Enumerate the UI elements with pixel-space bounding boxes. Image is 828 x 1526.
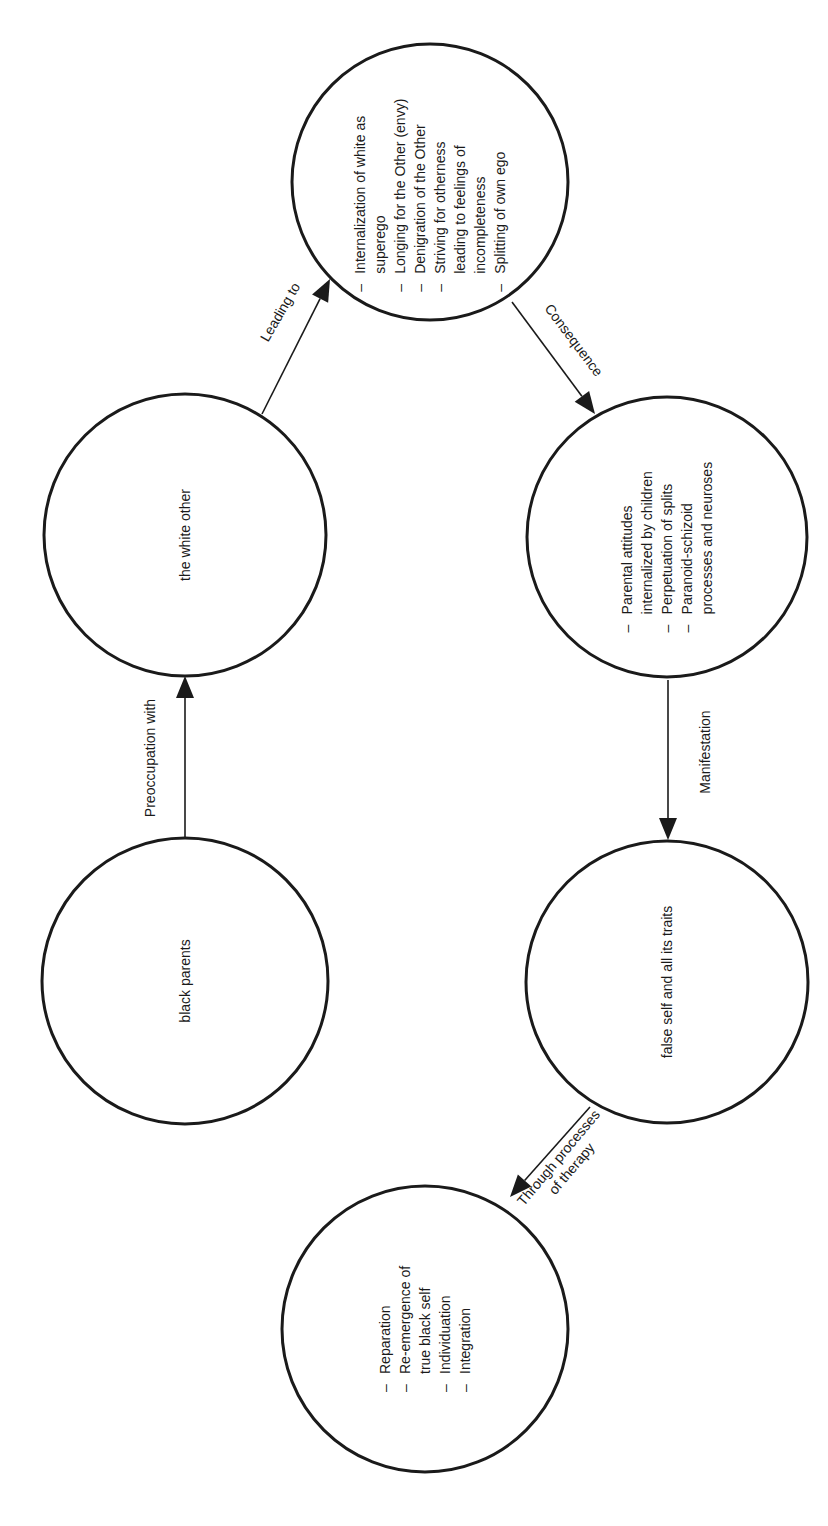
bullet-dash-icon: – [397, 1384, 413, 1392]
node-list-item: Reparation [377, 1306, 393, 1375]
node-list-item: Re-emergence of [397, 1266, 413, 1374]
node-list-item: processes and neuroses [699, 462, 715, 615]
node-list-item: Parental attitudes [619, 505, 635, 614]
edge-label: Manifestation [697, 710, 713, 793]
node-list-item: incompleteness [472, 177, 488, 274]
node-list-item: true black self [417, 1288, 433, 1374]
bullet-dash-icon: – [492, 284, 508, 292]
node-list-item: Splitting of own ego [492, 151, 508, 273]
node-black-parents: black parents [42, 838, 328, 1124]
node-label: black parents [177, 939, 193, 1022]
bullet-dash-icon: – [377, 1384, 393, 1392]
arrow-head-icon [176, 676, 194, 698]
bullet-dash-icon: – [352, 284, 368, 292]
bullet-dash-icon: – [392, 284, 408, 292]
edge-label-line: Preoccupation with [142, 699, 158, 817]
edge-label: Preoccupation with [142, 699, 158, 817]
bullet-dash-icon: – [412, 284, 428, 292]
node-list-item: Striving for otherness [432, 142, 448, 274]
node-list-item: leading to feelings of [452, 145, 468, 274]
node-reparation: –Reparation–Re-emergence oftrue black se… [282, 1186, 568, 1472]
node-label: false self and all its traits [659, 906, 675, 1059]
bullet-dash-icon: – [619, 624, 635, 632]
bullet-dash-icon: – [659, 624, 675, 632]
edge-label-line: Leading to [257, 280, 304, 345]
edge-parental-attitudes-to-false-self [659, 680, 677, 840]
node-list-item: Denigration of the Other [412, 124, 428, 274]
node-white-other: the white other [44, 394, 326, 676]
edge-black-parents-to-white-other [176, 676, 194, 838]
node-list-item: Paranoid-schizoid [679, 503, 695, 614]
node-list-item: internalized by children [639, 471, 655, 614]
node-list-item: Individuation [437, 1295, 453, 1374]
node-text-group: false self and all its traits [659, 906, 675, 1059]
arrow-head-icon [312, 279, 330, 303]
node-parental-attitudes: –Parental attitudesinternalized by child… [527, 397, 807, 677]
node-text-group: the white other [177, 489, 193, 581]
node-circle [292, 44, 568, 320]
node-list-item: Internalization of white as [352, 116, 368, 274]
node-list-item: Longing for the Other (envy) [392, 99, 408, 274]
node-white-superego: –Internalization of white assuperego–Lon… [292, 44, 568, 320]
node-text-group: black parents [177, 939, 193, 1022]
edge-label: Through processesof therapy [514, 1106, 616, 1219]
bullet-dash-icon: – [432, 284, 448, 292]
node-list-item: Integration [457, 1308, 473, 1374]
bullet-dash-icon: – [679, 624, 695, 632]
edge-label: Consequence [542, 301, 607, 380]
arrow-head-icon [659, 818, 677, 840]
arrow-head-icon [575, 391, 595, 414]
edge-label-line: Manifestation [697, 710, 713, 793]
node-list-item: superego [372, 215, 388, 274]
node-list-item: Perpetuation of splits [659, 484, 675, 615]
bullet-dash-icon: – [437, 1384, 453, 1392]
edge-label: Leading to [257, 280, 304, 345]
node-label: the white other [177, 489, 193, 581]
diagram-canvas: –Internalization of white assuperego–Lon… [0, 0, 828, 1526]
bullet-dash-icon: – [457, 1384, 473, 1392]
node-false-self: false self and all its traits [526, 841, 808, 1123]
edge-label-line: Consequence [542, 301, 607, 380]
